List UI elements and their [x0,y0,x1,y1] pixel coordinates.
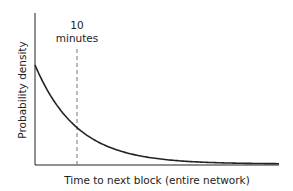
annotation-line1: 10 [70,19,83,31]
chart: 10 minutes Time to next block (entire ne… [0,0,293,191]
y-axis-label: Probability density [16,41,28,138]
annotation-line2: minutes [56,32,99,44]
density-curve [35,65,279,164]
x-axis-label: Time to next block (entire network) [63,174,250,186]
